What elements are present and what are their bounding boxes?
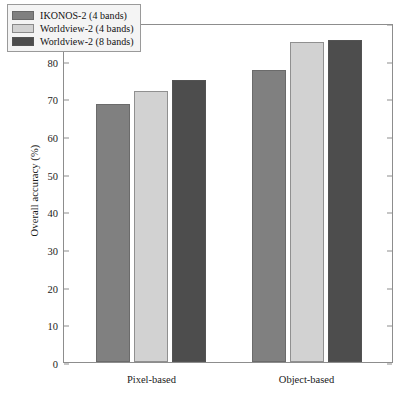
y-tick-mark-right: [387, 288, 392, 289]
bar-chart-figure: Overall accuracy (%) 0102030405060708090…: [0, 0, 415, 399]
y-tick-label: 0: [53, 359, 58, 370]
y-tick-mark: [64, 364, 69, 365]
bar: [96, 104, 130, 362]
legend-swatch-icon: [12, 11, 34, 20]
y-tick-label: 80: [48, 57, 59, 68]
legend-swatch-icon: [12, 24, 34, 33]
bar: [134, 91, 168, 362]
y-tick-label: 40: [48, 208, 59, 219]
bar: [290, 42, 324, 362]
y-tick-label: 20: [48, 283, 59, 294]
y-tick-mark-right: [387, 175, 392, 176]
y-tick-mark: [64, 213, 69, 214]
legend-item-label: Worldview-2 (4 bands): [40, 23, 134, 34]
y-tick-label: 50: [48, 170, 59, 181]
y-tick-mark: [64, 100, 69, 101]
bar: [172, 80, 206, 363]
y-tick-label: 60: [48, 133, 59, 144]
y-tick-mark: [64, 251, 69, 252]
y-tick-mark-right: [387, 138, 392, 139]
legend-swatch-icon: [12, 37, 34, 46]
y-tick-mark-right: [387, 62, 392, 63]
legend-item: IKONOS-2 (4 bands): [12, 9, 134, 21]
y-tick-mark-right: [387, 213, 392, 214]
y-tick-mark-right: [387, 100, 392, 101]
y-tick-mark: [64, 62, 69, 63]
legend-item: Worldview-2 (8 bands): [12, 35, 134, 47]
y-tick-label: 30: [48, 246, 59, 257]
bar: [328, 40, 362, 362]
y-tick-mark-right: [387, 326, 392, 327]
x-tick-label: Pixel-based: [127, 374, 176, 385]
y-tick-label: 70: [48, 95, 59, 106]
y-tick-mark-right: [387, 364, 392, 365]
bar: [252, 70, 286, 362]
legend-item: Worldview-2 (4 bands): [12, 22, 134, 34]
y-tick-mark: [64, 138, 69, 139]
plot-area: 0102030405060708090 Pixel-basedObject-ba…: [63, 24, 393, 363]
y-tick-mark: [64, 175, 69, 176]
chart-legend: IKONOS-2 (4 bands)Worldview-2 (4 bands)W…: [7, 4, 141, 52]
y-tick-mark: [64, 288, 69, 289]
y-tick-mark: [64, 326, 69, 327]
y-tick-mark-right: [387, 25, 392, 26]
legend-item-label: Worldview-2 (8 bands): [40, 36, 134, 47]
y-tick-label: 10: [48, 321, 59, 332]
y-axis-title: Overall accuracy (%): [29, 111, 40, 271]
legend-item-label: IKONOS-2 (4 bands): [40, 10, 127, 21]
x-tick-label: Object-based: [279, 374, 334, 385]
y-tick-mark-right: [387, 251, 392, 252]
